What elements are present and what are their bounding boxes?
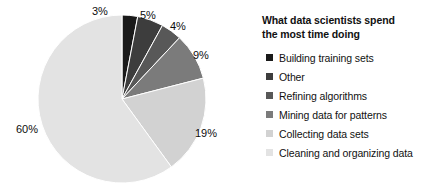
legend-swatch-icon <box>266 149 273 156</box>
legend-item-label: Refining algorithms <box>279 91 367 102</box>
pie-slice-value-label: 19% <box>195 128 217 139</box>
pie-slice-value-label: 60% <box>16 124 38 135</box>
pie-svg <box>0 0 250 186</box>
legend-item-label: Cleaning and organizing data <box>279 148 413 159</box>
legend-item-label: Collecting data sets <box>279 129 369 140</box>
legend-items: Building training setsOtherRefining algo… <box>262 50 443 160</box>
chart-legend: What data scientists spend the most time… <box>262 13 443 164</box>
legend-title-line-2: the most time doing <box>262 27 443 41</box>
pie-plot-area: 3%5%4%9%19%60% <box>0 0 250 186</box>
legend-item-label: Building training sets <box>279 53 374 64</box>
legend-swatch-icon <box>266 54 273 61</box>
legend-item[interactable]: Refining algorithms <box>262 88 443 103</box>
legend-swatch-icon <box>266 130 273 137</box>
legend-swatch-icon <box>266 111 273 118</box>
pie-slice-value-label: 4% <box>170 21 186 32</box>
legend-swatch-icon <box>266 92 273 99</box>
pie-slices-group <box>38 15 206 183</box>
legend-item-label: Mining data for patterns <box>279 110 387 121</box>
legend-item[interactable]: Cleaning and organizing data <box>262 145 443 160</box>
legend-title: What data scientists spend the most time… <box>262 13 443 41</box>
legend-item[interactable]: Building training sets <box>262 50 443 65</box>
legend-item-label: Other <box>279 72 305 83</box>
pie-slice-value-label: 3% <box>92 6 108 17</box>
pie-slice-value-label: 9% <box>193 50 209 61</box>
pie-chart-figure: 3%5%4%9%19%60% What data scientists spen… <box>0 0 443 186</box>
legend-item[interactable]: Other <box>262 69 443 84</box>
legend-swatch-icon <box>266 73 273 80</box>
legend-item[interactable]: Collecting data sets <box>262 126 443 141</box>
pie-slice-value-label: 5% <box>140 10 156 21</box>
legend-title-line-1: What data scientists spend <box>262 13 443 27</box>
legend-item[interactable]: Mining data for patterns <box>262 107 443 122</box>
